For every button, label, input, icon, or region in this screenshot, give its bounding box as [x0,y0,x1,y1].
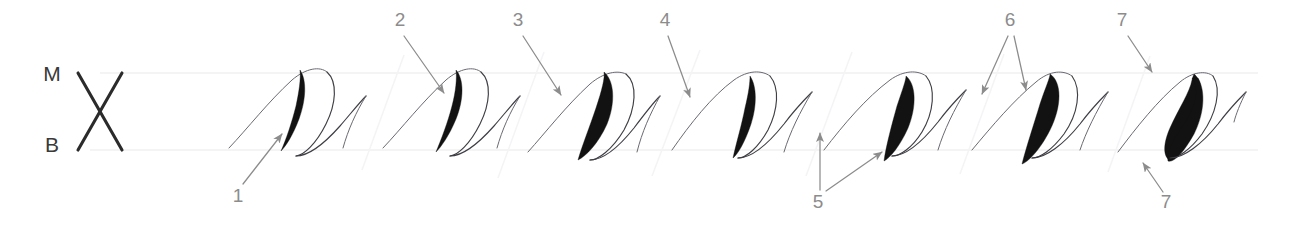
callout-4-label: 4 [660,9,671,30]
callout-1-label: 1 [233,185,244,206]
stroke-group-3 [528,72,660,160]
callout-6-leader-left [982,36,1008,94]
callout-3: 3 [513,9,561,95]
stroke-group-5 [824,72,966,161]
callout-5-label: 5 [813,191,824,212]
callout-7-bottom-leader [1143,163,1163,192]
slant-x-mark [78,73,122,150]
slant-guide [960,54,1004,174]
callout-4: 4 [660,9,690,97]
callout-2-leader [404,36,444,93]
callout-5-leader-diagonal [826,152,882,191]
guideline-group [90,73,1258,150]
slant-guide [806,52,852,176]
callout-1: 1 [233,134,282,206]
stroke-group-2 [383,69,520,156]
callout-6-leader-right [1014,36,1026,90]
callout-6-label: 6 [1005,9,1016,30]
callout-1-leader [243,134,282,184]
callout-2-label: 2 [395,9,406,30]
callout-5: 5 [813,133,882,212]
baseline-label: B [45,133,59,156]
penmanship-plate: M B [0,0,1290,235]
callout-3-leader [523,36,561,95]
callout-7-top: 7 [1117,9,1152,72]
slant-guide [652,50,700,176]
callout-4-leader [668,36,690,97]
stroke-group-4 [672,72,812,158]
plate-canvas: M B [0,0,1290,235]
callout-6: 6 [982,9,1026,94]
stroke-group-7 [1118,73,1246,162]
callout-2: 2 [395,9,444,93]
callout-7-bottom-label: 7 [1161,191,1172,212]
midline-label: M [43,62,61,85]
callout-7-top-leader [1128,36,1152,72]
guide-key: M B [43,62,122,156]
callout-3-label: 3 [513,9,524,30]
slant-guide [498,52,544,178]
stroke-group-1 [229,69,366,156]
callout-7-top-label: 7 [1117,9,1128,30]
callout-7-bottom: 7 [1143,163,1171,212]
slant-guide-group [362,50,1150,178]
